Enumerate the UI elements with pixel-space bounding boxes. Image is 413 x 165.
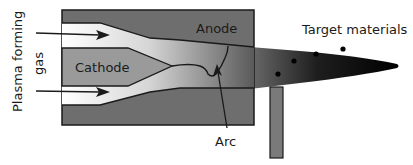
label-plasma-forming-gas: Plasma forming: [10, 11, 25, 112]
label-anode: Anode: [196, 21, 237, 36]
label-target-materials: Target materials: [301, 22, 408, 37]
particle-dot: [275, 71, 280, 76]
label-arc: Arc: [215, 134, 236, 149]
particle-dot: [313, 51, 318, 56]
plasma-plume: [250, 47, 399, 89]
plasma-torch-diagram: Plasma forming gas Cathode Anode Arc Tar…: [0, 0, 413, 165]
probe-rod: [270, 87, 283, 158]
label-cathode: Cathode: [75, 60, 130, 75]
label-gas: gas: [31, 52, 46, 75]
particle-dot: [340, 46, 345, 51]
particle-dot: [291, 58, 296, 63]
